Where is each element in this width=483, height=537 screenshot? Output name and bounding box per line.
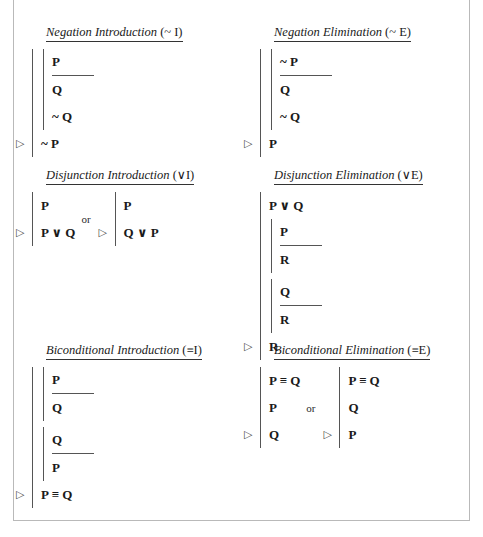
rule-abbreviation: (∨E) xyxy=(394,168,422,182)
rule-name: Negation Introduction xyxy=(46,25,157,39)
conclusion-line: P xyxy=(269,130,332,157)
proof-biconditional-elimination: ▷P ≡ QPQ xyxy=(242,367,300,448)
conclusion-marker-gutter: ▷ xyxy=(14,367,32,508)
proof-biconditional-introduction: ▷PQQPP ≡ Q xyxy=(14,367,94,508)
premise-line: P ≡ Q xyxy=(269,367,300,394)
rule-abbreviation: (∨I) xyxy=(170,168,195,182)
conclusion-line: P ≡ Q xyxy=(41,481,94,508)
conclusion-marker-icon: ▷ xyxy=(244,138,252,149)
rule-row-2: Disjunction Introduction (∨I)▷PP ∨ Qor▷P… xyxy=(14,165,470,360)
rule-title-biconditional-introduction: Biconditional Introduction (≡I) xyxy=(46,343,202,360)
conclusion-marker-icon: ▷ xyxy=(16,138,24,149)
proof-biconditional-elimination-alt: ▷P ≡ QQP xyxy=(321,367,379,448)
assumption-line: Q xyxy=(280,279,322,306)
conclusion-marker-gutter: ▷ xyxy=(97,192,115,246)
rule-block-negation-elimination: Negation Elimination (~ E)▷~ PQ~ QP xyxy=(242,22,470,157)
proof-negation-elimination: ▷~ PQ~ QP xyxy=(242,49,332,157)
conclusion-marker-gutter: ▷ xyxy=(14,192,32,246)
proof-disjunction-introduction: ▷PP ∨ Q xyxy=(14,192,75,246)
rule-name: Disjunction Elimination xyxy=(274,168,394,182)
rule-name: Disjunction Introduction xyxy=(46,168,170,182)
premise-line: P ≡ Q xyxy=(348,367,379,394)
conclusion-marker-icon: ▷ xyxy=(99,227,107,238)
conclusion-line: Q xyxy=(269,421,300,448)
derived-line: ~ Q xyxy=(280,103,332,130)
proof-container: ▷PQ~ Q~ P xyxy=(14,49,242,157)
proof-container: ▷P ∨ QPRQRR xyxy=(242,192,470,360)
proof-level-outer: P ≡ QQP xyxy=(339,367,379,448)
subproof-1: PQ~ Q xyxy=(43,49,94,130)
subproof-2: QP xyxy=(43,427,94,481)
rule-block-biconditional-introduction: Biconditional Introduction (≡I)▷PQQPP ≡ … xyxy=(14,340,242,508)
conclusion-marker-icon: ▷ xyxy=(16,227,24,238)
conclusion-marker-icon: ▷ xyxy=(244,429,252,440)
conclusion-line: P ∨ Q xyxy=(41,219,75,246)
proof-container: ▷PP ∨ Qor▷PQ ∨ P xyxy=(14,192,242,246)
assumption-line: P xyxy=(52,49,94,76)
derived-line: Q xyxy=(52,394,94,421)
conclusion-marker-gutter: ▷ xyxy=(14,49,32,157)
rule-abbreviation: (~ I) xyxy=(157,25,183,39)
proof-level-outer: P ∨ QPRQRR xyxy=(260,192,322,360)
derived-line: P xyxy=(52,454,94,481)
assumption-line: P xyxy=(52,367,94,394)
conclusion-marker-gutter: ▷ xyxy=(242,192,260,360)
subproof-1: ~ PQ~ Q xyxy=(271,49,332,130)
proof-level-outer: PQ ∨ P xyxy=(115,192,159,246)
rule-title-disjunction-elimination: Disjunction Elimination (∨E) xyxy=(274,167,423,185)
assumption-line: P xyxy=(280,219,322,246)
proof-level-outer: PQQPP ≡ Q xyxy=(32,367,94,508)
proof-container: ▷P ≡ QPQor▷P ≡ QQP xyxy=(242,367,470,448)
proof-level-outer: ~ PQ~ QP xyxy=(260,49,332,157)
derived-line: R xyxy=(280,246,322,273)
rule-block-negation-introduction: Negation Introduction (~ I)▷PQ~ Q~ P xyxy=(14,22,242,157)
conclusion-marker-gutter: ▷ xyxy=(242,367,260,448)
subproof-1: PQ xyxy=(43,367,94,421)
conclusion-marker-gutter: ▷ xyxy=(242,49,260,157)
assumption-line: ~ P xyxy=(280,49,332,76)
derived-line: ~ Q xyxy=(52,103,94,130)
premise-line: Q xyxy=(348,394,379,421)
conclusion-marker-icon: ▷ xyxy=(16,489,24,500)
rule-block-disjunction-introduction: Disjunction Introduction (∨I)▷PP ∨ Qor▷P… xyxy=(14,165,242,360)
proof-level-outer: P ≡ QPQ xyxy=(260,367,300,448)
rule-title-negation-elimination: Negation Elimination (~ E) xyxy=(274,25,411,42)
rule-title-biconditional-elimination: Biconditional Elimination (≡E) xyxy=(274,343,430,360)
assumption-line: Q xyxy=(52,427,94,454)
page-frame: Negation Introduction (~ I)▷PQ~ Q~ PNega… xyxy=(13,0,470,521)
rule-block-biconditional-elimination: Biconditional Elimination (≡E)▷P ≡ QPQor… xyxy=(242,340,470,508)
proof-level-outer: PQ~ Q~ P xyxy=(32,49,94,157)
conclusion-line: P xyxy=(348,421,379,448)
rule-abbreviation: (≡E) xyxy=(404,343,430,357)
proof-negation-introduction: ▷PQ~ Q~ P xyxy=(14,49,94,157)
derived-line: R xyxy=(280,306,322,333)
rule-block-disjunction-elimination: Disjunction Elimination (∨E)▷P ∨ QPRQRR xyxy=(242,165,470,360)
derived-line: Q xyxy=(52,76,94,103)
subproof-2: QR xyxy=(271,279,322,333)
conclusion-marker-icon: ▷ xyxy=(323,429,331,440)
rule-name: Negation Elimination xyxy=(274,25,382,39)
rule-abbreviation: (≡I) xyxy=(179,343,202,357)
or-separator: or xyxy=(75,213,96,225)
proof-disjunction-elimination: ▷P ∨ QPRQRR xyxy=(242,192,322,360)
proof-container: ▷PQQPP ≡ Q xyxy=(14,367,242,508)
proof-disjunction-introduction-alt: ▷PQ ∨ P xyxy=(97,192,159,246)
derived-line: Q xyxy=(280,76,332,103)
premise-line: P xyxy=(124,192,159,219)
rule-name: Biconditional Introduction xyxy=(46,343,179,357)
proof-container: ▷~ PQ~ QP xyxy=(242,49,470,157)
conclusion-line: Q ∨ P xyxy=(124,219,159,246)
premise-line: P xyxy=(41,192,75,219)
or-separator: or xyxy=(300,402,321,414)
rule-row-1: Negation Introduction (~ I)▷PQ~ Q~ PNega… xyxy=(14,22,470,157)
conclusion-marker-gutter: ▷ xyxy=(321,367,339,448)
subproof-1: PR xyxy=(271,219,322,273)
rule-title-disjunction-introduction: Disjunction Introduction (∨I) xyxy=(46,167,194,185)
rule-name: Biconditional Elimination xyxy=(274,343,404,357)
conclusion-line: ~ P xyxy=(41,130,94,157)
rule-row-3: Biconditional Introduction (≡I)▷PQQPP ≡ … xyxy=(14,340,470,508)
premise-line: P xyxy=(269,394,300,421)
premise-line: P ∨ Q xyxy=(269,192,322,219)
proof-level-outer: PP ∨ Q xyxy=(32,192,75,246)
rule-abbreviation: (~ E) xyxy=(382,25,411,39)
